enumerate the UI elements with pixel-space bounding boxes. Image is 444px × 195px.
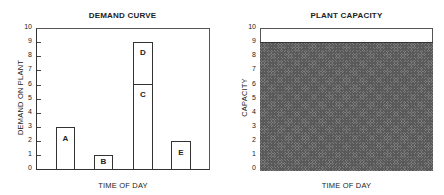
bar-label-a: A (56, 134, 75, 143)
tick-mark (37, 141, 41, 142)
chart-title: DEMAND CURVE (36, 11, 209, 20)
bar-label-d: D (133, 48, 153, 57)
tick-label: 0 (20, 164, 32, 171)
tick-mark (37, 85, 41, 86)
capacity-fill (260, 42, 433, 171)
x-axis-label: TIME OF DAY (260, 181, 433, 190)
tick-label: 1 (20, 150, 32, 157)
tick-label: 0 (244, 164, 256, 171)
tick-mark (37, 70, 41, 71)
tick-label: 1 (244, 150, 256, 157)
bar-label-e: E (171, 148, 191, 157)
y-axis-label: DEMAND ON PLANT (16, 48, 25, 148)
tick-mark (37, 155, 41, 156)
x-axis-label: TIME OF DAY (36, 181, 210, 190)
tick-label: 10 (244, 23, 256, 30)
tick-mark (37, 42, 41, 43)
y-axis-label: CAPACITY (240, 48, 249, 148)
tick-mark (37, 127, 41, 128)
tick-mark (37, 56, 41, 57)
tick-label: 9 (244, 37, 256, 44)
tick-label: 10 (20, 23, 32, 30)
tick-label: 9 (20, 37, 32, 44)
bar-label-b: B (94, 157, 113, 166)
tick-mark (37, 99, 41, 100)
tick-mark (37, 113, 41, 114)
bar-label-c: C (133, 90, 153, 99)
chart-title: PLANT CAPACITY (260, 11, 433, 20)
